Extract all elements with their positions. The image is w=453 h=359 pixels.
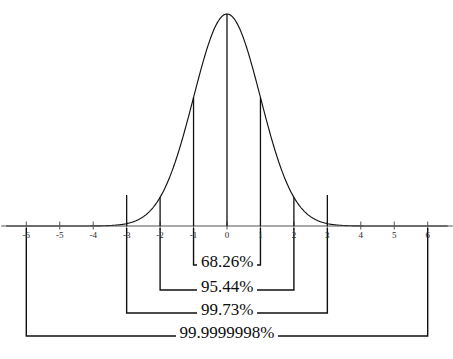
axis-tick-label: 2 bbox=[284, 230, 304, 240]
axis-tick-label: -3 bbox=[117, 230, 137, 240]
axis-tick-label: 0 bbox=[217, 230, 237, 240]
sigma-marker-lines bbox=[127, 14, 328, 226]
axis-tick-label: -6 bbox=[16, 230, 36, 240]
axis-tick-label: -4 bbox=[83, 230, 103, 240]
axis-tick-label: 3 bbox=[317, 230, 337, 240]
percentage-label-two-sigma: 95.44% bbox=[197, 278, 257, 296]
sigma-diagram: -6-5-4-3-2-10123456 68.26%95.44%99.73%99… bbox=[0, 0, 453, 359]
axis-tick-label: 4 bbox=[351, 230, 371, 240]
axis-tick-label: -1 bbox=[184, 230, 204, 240]
axis-tick-label: 1 bbox=[250, 230, 270, 240]
axis-tick-label: 6 bbox=[418, 230, 438, 240]
percentage-label-three-sigma: 99.73% bbox=[197, 301, 257, 319]
percentage-label-six-sigma: 99.9999998% bbox=[176, 324, 279, 342]
axis-tick-label: -2 bbox=[150, 230, 170, 240]
percentage-label-one-sigma: 68.26% bbox=[197, 253, 257, 271]
axis-tick-label: -5 bbox=[50, 230, 70, 240]
axis-tick-label: 5 bbox=[384, 230, 404, 240]
